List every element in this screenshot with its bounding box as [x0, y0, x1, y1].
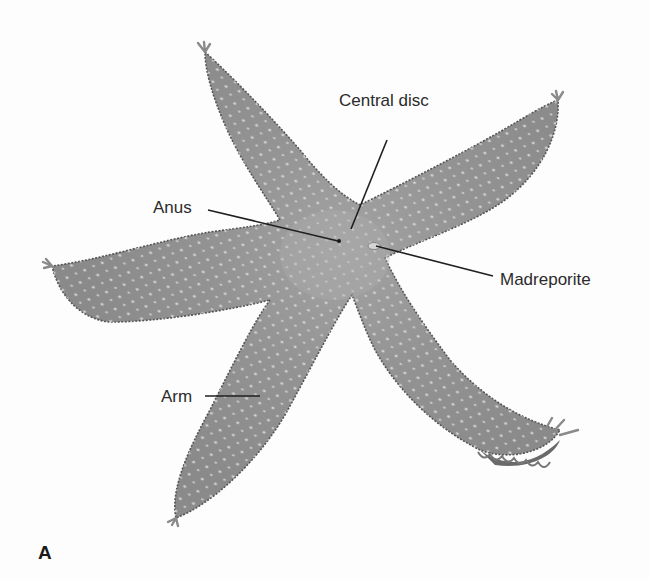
label-anus: Anus [153, 199, 192, 216]
label-madreporite: Madreporite [500, 271, 591, 288]
label-arm: Arm [161, 388, 192, 405]
starfish-body [52, 52, 560, 518]
panel-letter: A [38, 542, 52, 564]
madreporite-leader [376, 246, 493, 276]
starfish-illustration [0, 0, 649, 580]
figure-canvas: Central disc Anus Madreporite Arm A [0, 0, 649, 580]
central-disc-shading [280, 210, 390, 300]
label-central-disc: Central disc [339, 92, 429, 109]
